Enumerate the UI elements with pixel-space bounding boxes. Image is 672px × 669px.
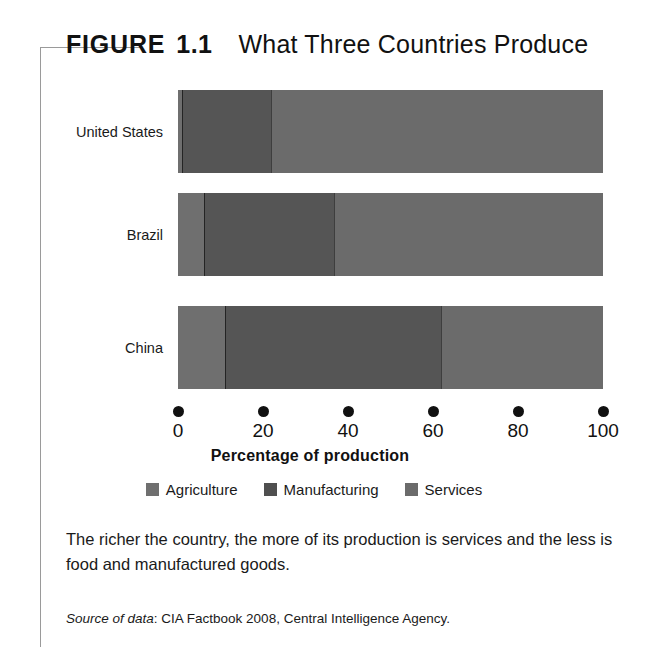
bar-row <box>178 90 603 173</box>
legend-swatch-agriculture-icon <box>146 483 159 496</box>
axis-tick-label: 80 <box>488 420 548 442</box>
axis-tick-dot <box>428 406 439 417</box>
axis-tick-label: 60 <box>403 420 463 442</box>
figure-container: FIGURE 1.1 What Three Countries Produce … <box>0 0 672 669</box>
chart-legend: Agriculture Manufacturing Services <box>0 481 628 498</box>
category-label-china: China <box>13 340 163 356</box>
axis-tick-dot <box>343 406 354 417</box>
bar-row <box>178 306 603 389</box>
legend-item-agriculture: Agriculture <box>146 481 238 498</box>
axis-tick-label: 20 <box>233 420 293 442</box>
bar-segment-services <box>335 193 603 276</box>
legend-label-manufacturing: Manufacturing <box>284 481 379 498</box>
source-text: : CIA Factbook 2008, Central Intelligenc… <box>154 611 450 626</box>
axis-tick-dot <box>173 406 184 417</box>
source-lead: Source of data <box>66 611 154 626</box>
legend-label-services: Services <box>425 481 483 498</box>
legend-item-manufacturing: Manufacturing <box>264 481 379 498</box>
x-axis-title: Percentage of production <box>0 447 620 465</box>
axis-tick-label: 100 <box>573 420 633 442</box>
axis-tick-dot <box>258 406 269 417</box>
category-label-united-states: United States <box>13 124 163 140</box>
figure-caption: The richer the country, the more of its … <box>66 527 626 577</box>
bar-segment-services <box>272 90 604 173</box>
bar-segment-services <box>442 306 604 389</box>
axis-tick-label: 40 <box>318 420 378 442</box>
legend-label-agriculture: Agriculture <box>166 481 238 498</box>
figure-source: Source of data: CIA Factbook 2008, Centr… <box>66 611 636 626</box>
legend-swatch-manufacturing-icon <box>264 483 277 496</box>
bar-segment-agriculture <box>178 306 225 389</box>
bar-segment-manufacturing <box>225 306 442 389</box>
legend-swatch-services-icon <box>405 483 418 496</box>
axis-tick-label: 0 <box>148 420 208 442</box>
legend-item-services: Services <box>405 481 483 498</box>
category-label-brazil: Brazil <box>13 227 163 243</box>
bar-segment-manufacturing <box>182 90 271 173</box>
axis-tick-dot <box>513 406 524 417</box>
bar-row <box>178 193 603 276</box>
axis-tick-dot <box>598 406 609 417</box>
x-axis: 0 20 40 60 80 100 <box>0 406 672 452</box>
bar-segment-agriculture <box>178 193 204 276</box>
bar-segment-manufacturing <box>204 193 336 276</box>
